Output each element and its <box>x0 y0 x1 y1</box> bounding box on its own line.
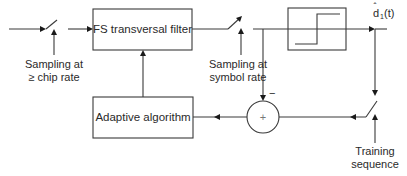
symbol-rate-sampling-label-line1: Sampling at <box>209 58 267 70</box>
input-signal-line <box>9 26 46 32</box>
summer-plus-sign: + <box>260 111 266 123</box>
summer-minus-sign: − <box>269 87 275 99</box>
adaptive-equalizer-diagram: FS transversal filter − + d ˆ 1 (t) <box>0 0 407 176</box>
filter-output-line <box>192 16 242 29</box>
training-switch <box>366 101 377 117</box>
adaptive-algorithm-label: Adaptive algorithm <box>95 111 190 123</box>
sampler-to-filter-line <box>68 26 93 32</box>
svg-text:ˆ: ˆ <box>374 1 377 11</box>
chip-rate-clock-arrow <box>51 29 57 55</box>
switch-to-summer-line <box>279 114 366 120</box>
training-sequence-label-line2: sequence <box>351 158 399 170</box>
error-signal-line <box>193 114 247 120</box>
output-label: d ˆ 1 (t) <box>373 1 394 20</box>
decision-feedback-line <box>372 29 378 96</box>
chip-rate-sampling-label-line2: ≥ chip rate <box>28 71 79 83</box>
training-sequence-label-line1: Training <box>355 145 394 157</box>
adaptive-algorithm-block: Adaptive algorithm <box>93 97 193 138</box>
sampled-signal-line <box>253 26 387 32</box>
fs-transversal-filter-block: FS transversal filter <box>93 9 192 50</box>
tap-update-line <box>140 50 146 97</box>
chip-rate-sampling-label-line1: Sampling at <box>25 58 83 70</box>
svg-text:(t): (t) <box>384 7 394 19</box>
summer-junction: + <box>247 101 279 133</box>
fs-filter-label: FS transversal filter <box>93 23 192 35</box>
chip-rate-sampler-switch <box>46 20 57 29</box>
symbol-rate-sampling-label-line2: symbol rate <box>210 71 267 83</box>
training-sequence-arrow <box>372 114 378 143</box>
symbol-rate-clock-arrow <box>238 28 244 55</box>
